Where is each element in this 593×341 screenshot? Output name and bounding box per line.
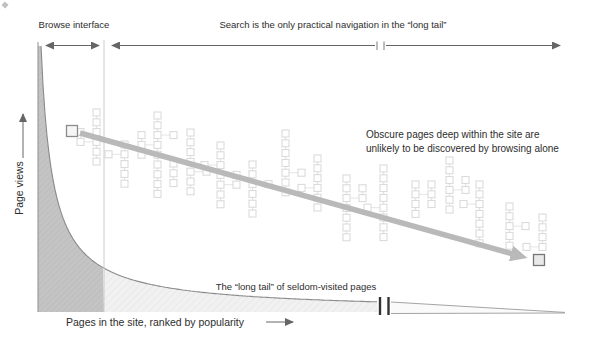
tree-page-node bbox=[217, 181, 224, 188]
site-tree bbox=[298, 155, 321, 211]
tree-page-node bbox=[170, 170, 177, 177]
tree-page-node bbox=[154, 141, 161, 148]
tree-page-node bbox=[187, 168, 194, 175]
tree-page-node bbox=[460, 201, 467, 208]
site-tree bbox=[170, 160, 177, 187]
tree-page-node bbox=[314, 204, 321, 211]
tree-page-node bbox=[506, 213, 513, 220]
x-axis-label: Pages in the site, ranked by popularity bbox=[66, 316, 245, 328]
tree-page-node bbox=[314, 155, 321, 162]
tree-page-node bbox=[298, 169, 305, 176]
tree-page-node bbox=[298, 184, 305, 191]
tree-page-node bbox=[217, 201, 224, 208]
tree-page-node bbox=[233, 181, 240, 188]
x-axis-break bbox=[380, 297, 389, 315]
tree-page-node bbox=[314, 184, 321, 191]
tree-page-node bbox=[282, 150, 289, 157]
tree-page-node bbox=[343, 234, 350, 241]
tree-page-node bbox=[154, 122, 161, 129]
tree-page-node bbox=[249, 161, 256, 168]
start-page-square bbox=[67, 126, 78, 137]
tree-page-node bbox=[105, 151, 112, 158]
tree-page-node bbox=[343, 185, 350, 192]
site-tree bbox=[506, 203, 529, 249]
tree-page-node bbox=[217, 191, 224, 198]
tree-page-node bbox=[523, 243, 530, 250]
tree-page-node bbox=[446, 186, 453, 193]
tree-page-node bbox=[476, 220, 483, 227]
tree-page-node bbox=[282, 179, 289, 186]
tree-page-node bbox=[282, 169, 289, 176]
tree-page-node bbox=[343, 224, 350, 231]
tree-page-node bbox=[249, 190, 256, 197]
tree-page-node bbox=[446, 206, 453, 213]
tree-page-node bbox=[380, 204, 387, 211]
tree-page-node bbox=[217, 152, 224, 159]
tree-page-node bbox=[282, 159, 289, 166]
tree-page-node bbox=[539, 214, 546, 221]
tree-page-node bbox=[170, 132, 177, 139]
tree-page-node bbox=[539, 234, 546, 241]
tail-baseline-after-break bbox=[391, 313, 565, 314]
tree-page-node bbox=[282, 130, 289, 137]
tree-page-node bbox=[380, 175, 387, 182]
tree-page-node bbox=[506, 203, 513, 210]
tree-page-node bbox=[249, 200, 256, 207]
tree-page-node bbox=[506, 242, 513, 249]
search-navigation-label: Search is the only practical navigation … bbox=[219, 19, 446, 30]
tree-page-node bbox=[539, 243, 546, 250]
tree-page-node bbox=[380, 165, 387, 172]
tree-page-node bbox=[314, 175, 321, 182]
long-tail-diagram-page: Browse interface Search is the only prac… bbox=[0, 0, 593, 341]
tree-page-node bbox=[93, 148, 100, 155]
tree-page-node bbox=[154, 181, 161, 188]
tree-page-node bbox=[522, 223, 529, 230]
tree-page-node bbox=[93, 119, 100, 126]
tree-page-node bbox=[343, 175, 350, 182]
site-tree bbox=[364, 165, 387, 241]
long-tail-label: The “long tail” of seldom-visited pages bbox=[216, 281, 377, 292]
tree-page-node bbox=[154, 171, 161, 178]
long-tail-diagram: Browse interface Search is the only prac… bbox=[0, 0, 593, 341]
tree-page-node bbox=[187, 129, 194, 136]
tree-page-node bbox=[217, 142, 224, 149]
site-tree bbox=[523, 214, 546, 250]
tree-page-node bbox=[380, 224, 387, 231]
tree-page-node bbox=[446, 196, 453, 203]
tree-page-node bbox=[93, 109, 100, 116]
tree-page-node bbox=[476, 191, 483, 198]
tree-page-node bbox=[121, 180, 128, 187]
tree-page-node bbox=[138, 132, 145, 139]
tree-page-node bbox=[412, 181, 419, 188]
browse-head-area bbox=[38, 46, 104, 312]
tree-page-node bbox=[154, 190, 161, 197]
tree-page-node bbox=[154, 161, 161, 168]
tree-page-node bbox=[343, 214, 350, 221]
tree-page-node bbox=[359, 185, 366, 192]
tree-page-node bbox=[77, 138, 84, 145]
browse-interface-label: Browse interface bbox=[39, 19, 110, 30]
tree-page-node bbox=[446, 167, 453, 174]
tree-page-node bbox=[428, 201, 435, 208]
tree-page-node bbox=[380, 234, 387, 241]
tree-page-node bbox=[187, 149, 194, 156]
obscure-page-square bbox=[534, 255, 545, 266]
y-axis-label: Page views bbox=[13, 161, 25, 215]
tree-page-node bbox=[412, 191, 419, 198]
tree-page-node bbox=[539, 224, 546, 231]
tree-page-node bbox=[170, 180, 177, 187]
tree-page-node bbox=[121, 151, 128, 158]
tree-page-node bbox=[380, 185, 387, 192]
tree-page-node bbox=[154, 112, 161, 119]
tree-page-node bbox=[506, 223, 513, 230]
tree-page-node bbox=[93, 158, 100, 165]
tree-page-node bbox=[343, 195, 350, 202]
tree-page-node bbox=[249, 171, 256, 178]
tree-page-node bbox=[217, 162, 224, 169]
tree-page-node bbox=[462, 177, 469, 184]
tree-page-node bbox=[476, 181, 483, 188]
tree-page-node bbox=[428, 191, 435, 198]
tree-page-node bbox=[359, 195, 366, 202]
tree-page-node bbox=[412, 201, 419, 208]
page-corner-artifact bbox=[1, 1, 8, 8]
